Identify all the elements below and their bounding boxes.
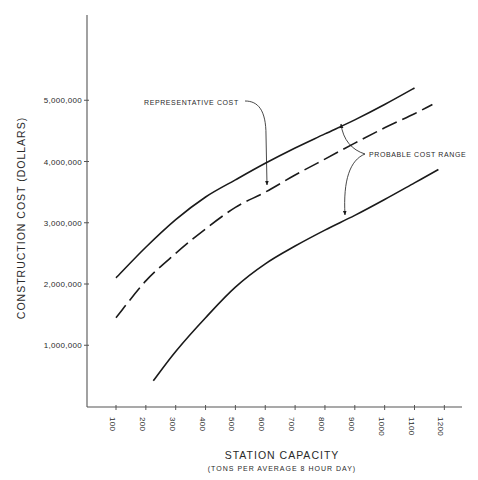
y-tick-label: 4,000,000 xyxy=(44,158,83,167)
chart-canvas: 1,000,0002,000,0003,000,0004,000,0005,00… xyxy=(0,0,478,480)
series-layer xyxy=(116,88,438,381)
annotation-arrow-upper xyxy=(341,124,365,154)
x-tick-label: 1200 xyxy=(436,417,445,436)
y-tick-label: 3,000,000 xyxy=(44,219,83,228)
upper-bound-line xyxy=(116,88,415,278)
annotation-arrow-lower xyxy=(345,154,365,215)
axes: 1,000,0002,000,0003,000,0004,000,0005,00… xyxy=(15,15,462,473)
x-axis-subtitle: (TONS PER AVERAGE 8 HOUR DAY) xyxy=(208,465,356,473)
x-tick-label: 300 xyxy=(168,417,177,431)
representative-cost-line xyxy=(116,105,432,318)
x-tick-label: 600 xyxy=(257,417,266,431)
x-tick-label: 500 xyxy=(227,417,236,431)
annotation-representative-cost: REPRESENTATIVE COST xyxy=(144,99,239,106)
x-tick-label: 900 xyxy=(347,417,356,431)
x-axis-title: STATION CAPACITY xyxy=(225,449,340,461)
annotation-probable-cost-range: PROBABLE COST RANGE xyxy=(369,151,466,158)
x-tick-label: 400 xyxy=(198,417,207,431)
y-axis-title: CONSTRUCTION COST (DOLLARS) xyxy=(15,117,27,319)
annotations: REPRESENTATIVE COSTPROBABLE COST RANGE xyxy=(144,99,466,215)
y-tick-label: 2,000,000 xyxy=(44,280,83,289)
y-tick-label: 5,000,000 xyxy=(44,96,83,105)
x-tick-label: 800 xyxy=(317,417,326,431)
x-tick-label: 100 xyxy=(108,417,117,431)
y-tick-label: 1,000,000 xyxy=(44,341,83,350)
x-tick-label: 200 xyxy=(138,417,147,431)
x-tick-label: 1100 xyxy=(407,417,416,436)
chart: 1,000,0002,000,0003,000,0004,000,0005,00… xyxy=(0,0,478,480)
x-tick-label: 1000 xyxy=(377,417,386,436)
x-tick-label: 700 xyxy=(287,417,296,431)
lower-bound-line xyxy=(153,170,438,381)
